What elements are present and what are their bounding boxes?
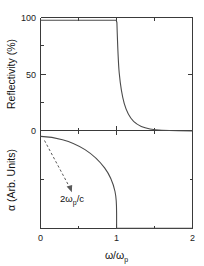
xaxis-label: ω/ωp xyxy=(105,249,128,264)
top-ytick-label-50: 50 xyxy=(26,70,36,80)
figure-canvas: 100 50 0 Reflectivity (%) α (Arb. Units)… xyxy=(0,0,204,266)
physics-figure-plasma-optical-response: 100 50 0 Reflectivity (%) α (Arb. Units)… xyxy=(0,0,204,266)
bottom-panel-ylabel: α (Arb. Units) xyxy=(5,149,17,211)
top-panel-ylabel: Reflectivity (%) xyxy=(5,39,17,109)
reflectivity-curve xyxy=(41,20,193,131)
absorption-curve xyxy=(41,136,117,228)
annotation-suffix: /c xyxy=(77,193,85,204)
top-ytick-label-0: 0 xyxy=(31,126,36,136)
annotation-arrow-head xyxy=(67,185,73,192)
xtick-label-2: 2 xyxy=(190,233,195,243)
top-ytick-label-100: 100 xyxy=(21,13,36,23)
xtick-label-0: 0 xyxy=(38,233,43,243)
xaxis-label-omega: ω xyxy=(105,249,113,261)
xtick-label-1: 1 xyxy=(114,233,119,243)
bottom-panel-absorption xyxy=(41,131,193,229)
annotation-arrow-line xyxy=(45,141,71,189)
xaxis-label-subscript: p xyxy=(124,256,128,264)
xaxis-label-omega2: ω xyxy=(116,249,124,261)
top-panel-reflectivity xyxy=(41,18,193,131)
bottom-ylabel-rest: (Arb. Units) xyxy=(5,149,17,205)
svg-text:α (Arb. Units): α (Arb. Units) xyxy=(5,149,17,211)
absorption-max-annotation: 2ωp/c xyxy=(60,193,84,207)
